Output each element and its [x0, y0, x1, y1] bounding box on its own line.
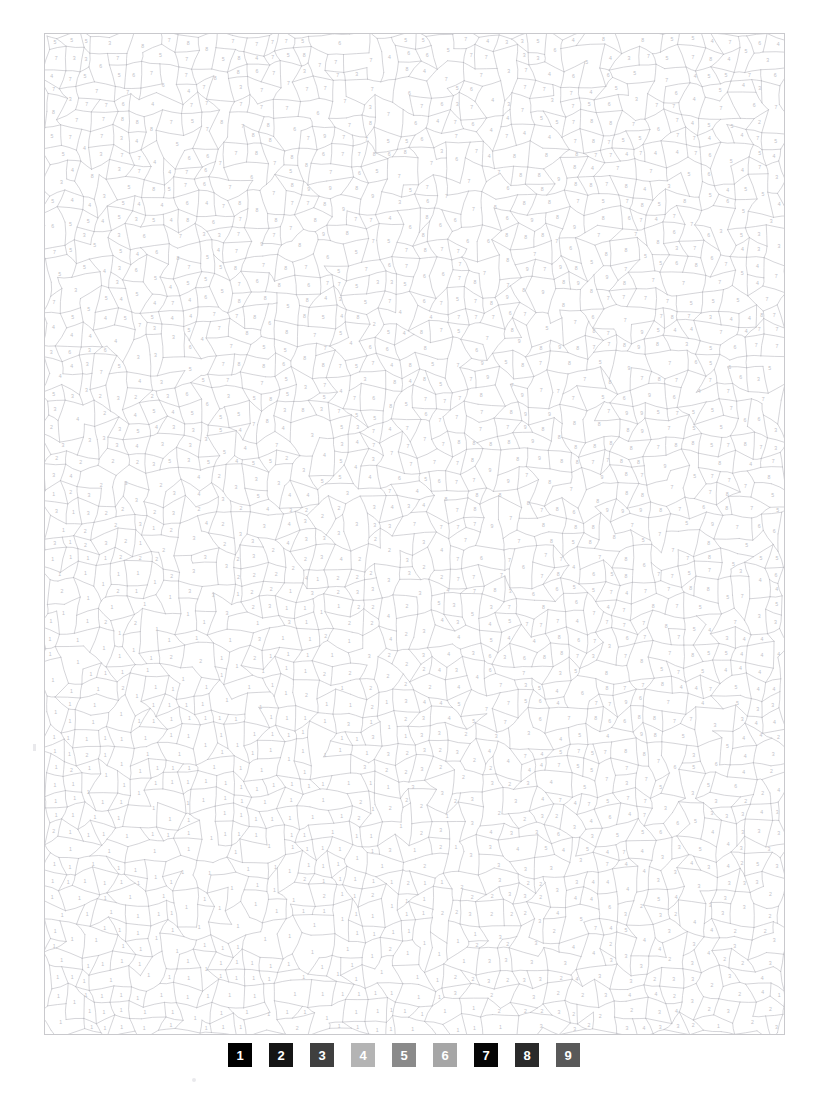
- legend-swatch-label: 9: [564, 1048, 571, 1063]
- legend-swatch-7[interactable]: 7: [474, 1043, 498, 1067]
- puzzle-grid[interactable]: 5553878877775674555743356488554756473367…: [44, 33, 785, 1035]
- legend-swatch-label: 1: [236, 1048, 243, 1063]
- legend-swatch-label: 8: [523, 1048, 530, 1063]
- puzzle-region-outlines: [45, 34, 784, 1034]
- margin-speck-bottom: [192, 1078, 196, 1082]
- legend-swatch-label: 4: [359, 1048, 366, 1063]
- legend-swatch-5[interactable]: 5: [392, 1043, 416, 1067]
- legend-swatch-label: 7: [482, 1048, 489, 1063]
- legend-swatch-label: 3: [318, 1048, 325, 1063]
- legend-swatch-8[interactable]: 8: [515, 1043, 539, 1067]
- legend-swatch-1[interactable]: 1: [228, 1043, 252, 1067]
- legend-swatch-label: 2: [277, 1048, 284, 1063]
- puzzle-page: 5553878877775674555743356488554756473367…: [0, 0, 833, 1119]
- legend-swatch-label: 6: [441, 1048, 448, 1063]
- legend-swatch-4[interactable]: 4: [351, 1043, 375, 1067]
- margin-speck-left: [33, 744, 36, 751]
- legend-swatch-6[interactable]: 6: [433, 1043, 457, 1067]
- color-legend: 123456789: [228, 1041, 572, 1069]
- legend-swatch-2[interactable]: 2: [269, 1043, 293, 1067]
- legend-swatch-3[interactable]: 3: [310, 1043, 334, 1067]
- legend-swatch-9[interactable]: 9: [556, 1043, 580, 1067]
- legend-swatch-label: 5: [400, 1048, 407, 1063]
